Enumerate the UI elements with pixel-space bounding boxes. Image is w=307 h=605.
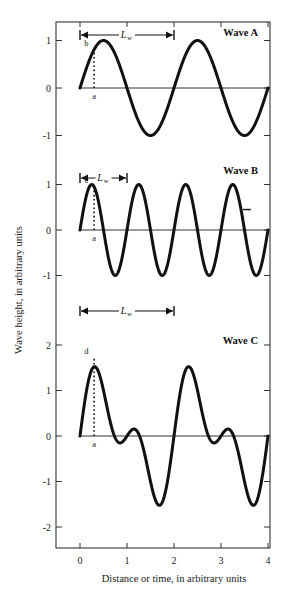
y-axis-label: Wave height, in arbitrary units — [13, 226, 24, 354]
y-tick-label-4: -2 — [43, 522, 51, 533]
x-tick-label-0: 0 — [78, 555, 83, 566]
point-label-a: a — [92, 439, 96, 449]
wavelength-label-subscript: w — [104, 177, 109, 184]
panel-1: 10-1baLwWave A — [43, 27, 270, 141]
point-label-d: d — [84, 346, 89, 356]
x-tick-label-2: 2 — [172, 555, 177, 566]
x-axis-label: Distance or time, in arbitrary units — [102, 573, 247, 584]
y-tick-label-2: -1 — [43, 270, 51, 281]
y-axis: Wave height, in arbitrary units — [13, 226, 24, 354]
wavelength-arrow-head-right — [166, 308, 173, 315]
x-tick-label-4: 4 — [266, 555, 271, 566]
y-tick-label-1: 0 — [46, 225, 51, 236]
wavelength-label-symbol: L — [96, 172, 103, 183]
wavelength-arrow-head-right — [119, 175, 126, 182]
wavelength-arrow-head-right — [166, 32, 173, 39]
wavelength-label-subscript: w — [127, 310, 132, 317]
wavelength-arrow-1: Lw — [80, 28, 174, 41]
x-axis: 01234Distance or time, in arbitrary unit… — [78, 22, 271, 584]
point-label-a: a — [92, 233, 96, 243]
x-tick-label-3: 3 — [219, 555, 224, 566]
plot-frame-box — [56, 22, 270, 548]
y-tick-label-3: -1 — [43, 476, 51, 487]
point-label-a: a — [92, 91, 96, 101]
x-tick-label-1: 1 — [125, 555, 130, 566]
y-tick-label-2: -1 — [43, 130, 51, 141]
y-tick-label-2: 0 — [46, 431, 51, 442]
y-tick-label-1: 0 — [46, 83, 51, 94]
panel-title-1: Wave A — [223, 27, 258, 38]
panel-title-2: Wave B — [223, 165, 258, 176]
wave-figure-svg: 01234Distance or time, in arbitrary unit… — [0, 0, 307, 605]
y-tick-label-0: 2 — [46, 340, 51, 351]
wave-figure: 01234Distance or time, in arbitrary unit… — [0, 0, 307, 605]
panel-title-3: Wave C — [223, 335, 258, 346]
panel-3: 210-1-2daLwWave C — [43, 304, 270, 533]
plot-frame — [56, 22, 270, 548]
panel-2: 10-1caLwWave B — [43, 165, 270, 281]
point-label-b: b — [84, 38, 88, 48]
wavelength-label-subscript: w — [127, 34, 132, 41]
y-tick-label-0: 1 — [46, 35, 51, 46]
wavelength-label-symbol: L — [120, 29, 127, 40]
wavelength-label-symbol: L — [120, 305, 127, 316]
wavelength-arrow-head-left — [81, 308, 88, 315]
wavelength-arrow-3: Lw — [80, 304, 174, 317]
y-tick-label-0: 1 — [46, 179, 51, 190]
y-tick-label-1: 1 — [46, 385, 51, 396]
